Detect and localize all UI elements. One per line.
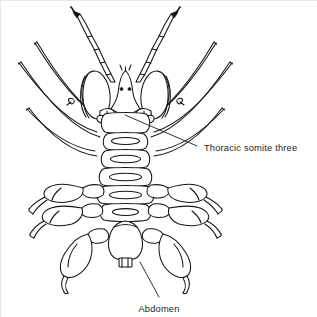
thoracic-somites xyxy=(97,113,154,222)
label-abdomen: Abdomen xyxy=(138,304,179,314)
clawed-leg-left-3 xyxy=(60,229,108,294)
antenna-left xyxy=(70,6,115,82)
arthropod-diagram: Thoracic somite three Abdomen xyxy=(1,1,317,317)
figure-container: Thoracic somite three Abdomen xyxy=(0,0,317,317)
leader-line-abdomen xyxy=(140,262,159,297)
pleon xyxy=(108,221,142,259)
abdomen-segment xyxy=(119,258,132,267)
label-thoracic-somite-three: Thoracic somite three xyxy=(204,143,297,153)
cephalon xyxy=(111,65,140,114)
antenna-right xyxy=(136,6,181,82)
clawed-leg-right-3 xyxy=(142,229,190,294)
